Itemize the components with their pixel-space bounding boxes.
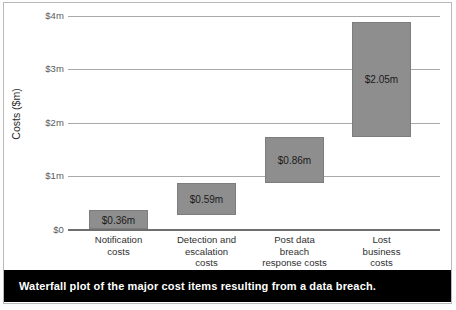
xtick-line: Post data [248,234,341,246]
ytick-wrap-1m: $1m [22,171,64,181]
bar-value-lost-business-costs: $2.05m [353,74,410,85]
xtick-label-post-data-breach-response-costs: Post data breach response costs [248,234,341,269]
xtick-line: costs [160,257,253,269]
xtick-label-lost-business-costs: Lost business costs [335,234,428,269]
xtick-line: Lost [335,234,428,246]
gridline-4m [68,16,440,17]
bar-detection-escalation-costs[interactable]: $0.59m [177,183,236,215]
xtick-line: breach [248,246,341,258]
bar-value-notification-costs: $0.36m [90,215,147,226]
figure-caption-text: Waterfall plot of the major cost items r… [4,280,376,292]
ytick-label-3m: $3m [28,64,64,74]
figure-container: Costs ($m) $4m $3m $2m $1m $0 $0.36m $0.… [0,0,456,310]
x-axis-baseline [68,229,440,231]
chart-plot-area: Costs ($m) $4m $3m $2m $1m $0 $0.36m $0.… [0,0,456,266]
figure-caption-bar: Waterfall plot of the major cost items r… [4,270,451,302]
ytick-wrap-3m: $3m [22,64,64,74]
ytick-label-1m: $1m [28,171,64,181]
xtick-line: costs [72,246,165,258]
ytick-label-4m: $4m [28,11,64,21]
bar-notification-costs[interactable]: $0.36m [89,210,148,229]
ytick-label-0: $0 [28,225,64,235]
bar-value-post-data-breach-response-costs: $0.86m [266,155,323,166]
y-axis-title: Costs ($m) [10,64,22,164]
xtick-line: business [335,246,428,258]
bar-lost-business-costs[interactable]: $2.05m [352,22,411,137]
xtick-line: Detection and [160,234,253,246]
xtick-label-detection-escalation-costs: Detection and escalation costs [160,234,253,269]
ytick-wrap-0: $0 [22,225,64,235]
xtick-line: escalation [160,246,253,258]
gridline-1m [68,176,440,177]
xtick-line: Notification [72,234,165,246]
bar-post-data-breach-response-costs[interactable]: $0.86m [265,137,324,183]
ytick-label-2m: $2m [28,118,64,128]
ytick-wrap-4m: $4m [22,11,64,21]
xtick-line: costs [335,257,428,269]
bar-value-detection-escalation-costs: $0.59m [178,194,235,205]
xtick-line: response costs [248,257,341,269]
ytick-wrap-2m: $2m [22,118,64,128]
xtick-label-notification-costs: Notification costs [72,234,165,257]
